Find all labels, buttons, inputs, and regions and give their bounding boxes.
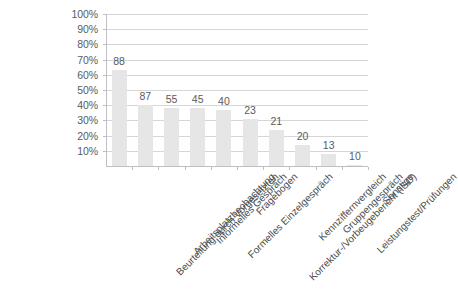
y-tick-mark: [103, 29, 106, 30]
bar[interactable]: [164, 108, 179, 166]
y-tick-label: 10%: [52, 146, 98, 156]
bar[interactable]: [243, 119, 258, 166]
y-tick-label: 50%: [52, 85, 98, 95]
bar[interactable]: [216, 110, 231, 166]
y-tick-mark: [103, 105, 106, 106]
bar[interactable]: [190, 108, 205, 166]
bar-value-label: 10: [349, 151, 361, 162]
bar-value-label: 45: [192, 94, 204, 105]
y-tick-mark: [103, 120, 106, 121]
bars-layer: 88875545402321201310: [106, 14, 368, 166]
bar-value-label: 21: [270, 116, 282, 127]
y-axis: 100%90%80%70%60%50%40%30%20%10%: [52, 14, 98, 166]
y-tick-mark: [103, 44, 106, 45]
y-tick-label: 30%: [52, 115, 98, 125]
x-tick-mark: [342, 167, 343, 170]
y-tick-label: 70%: [52, 55, 98, 65]
bar-value-label: 13: [323, 140, 335, 151]
bar[interactable]: [321, 154, 336, 166]
x-tick-mark: [132, 167, 133, 170]
bar[interactable]: [347, 165, 362, 166]
x-tick-mark: [368, 167, 369, 170]
x-tick-mark: [158, 167, 159, 170]
y-tick-label: 100%: [52, 9, 98, 19]
x-tick-mark: [237, 167, 238, 170]
x-tick-mark: [263, 167, 264, 170]
y-tick-mark: [103, 75, 106, 76]
bar-value-label: 23: [244, 105, 256, 116]
y-tick-mark: [103, 136, 106, 137]
bar-value-label: 88: [113, 56, 125, 67]
bar-value-label: 40: [218, 96, 230, 107]
x-tick-mark: [185, 167, 186, 170]
y-tick-label: 80%: [52, 39, 98, 49]
y-tick-mark: [103, 90, 106, 91]
x-tick-mark: [211, 167, 212, 170]
bar[interactable]: [269, 130, 284, 166]
bar-value-label: 87: [139, 91, 151, 102]
plot-area: 88875545402321201310: [106, 14, 368, 166]
y-tick-label: 60%: [52, 70, 98, 80]
bar[interactable]: [138, 105, 153, 166]
y-tick-label: 20%: [52, 131, 98, 141]
y-tick-mark: [103, 14, 106, 15]
bar[interactable]: [295, 145, 310, 166]
bar-value-label: 20: [297, 131, 309, 142]
y-tick-mark: [103, 60, 106, 61]
x-tick-mark: [316, 167, 317, 170]
y-tick-label: 40%: [52, 100, 98, 110]
bar-value-label: 55: [166, 94, 178, 105]
x-tick-mark: [289, 167, 290, 170]
bar[interactable]: [112, 70, 127, 166]
y-tick-label: 90%: [52, 24, 98, 34]
y-tick-mark: [103, 151, 106, 152]
